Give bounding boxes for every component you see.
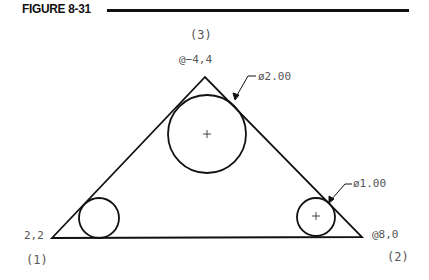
right-coordinate-label: @8,0 [372, 228, 399, 241]
big-circle-center-mark [203, 130, 211, 138]
point-1-label: (1) [26, 253, 48, 267]
left-small-circle [79, 198, 119, 238]
point-2-label: (2) [387, 250, 409, 264]
big-circle-leader [233, 76, 256, 100]
right-circle-center-mark [312, 212, 320, 220]
drawing-canvas [0, 0, 429, 280]
apex-coordinate-label: @−4,4 [179, 53, 212, 66]
small-circle-diameter-label: ø1.00 [353, 177, 386, 190]
big-circle-diameter-label: ø2.00 [258, 70, 291, 83]
small-circle-leader [329, 184, 352, 203]
triangle [52, 77, 362, 238]
point-3-label: (3) [190, 28, 212, 42]
start-coordinate-label: 2,2 [24, 229, 44, 242]
